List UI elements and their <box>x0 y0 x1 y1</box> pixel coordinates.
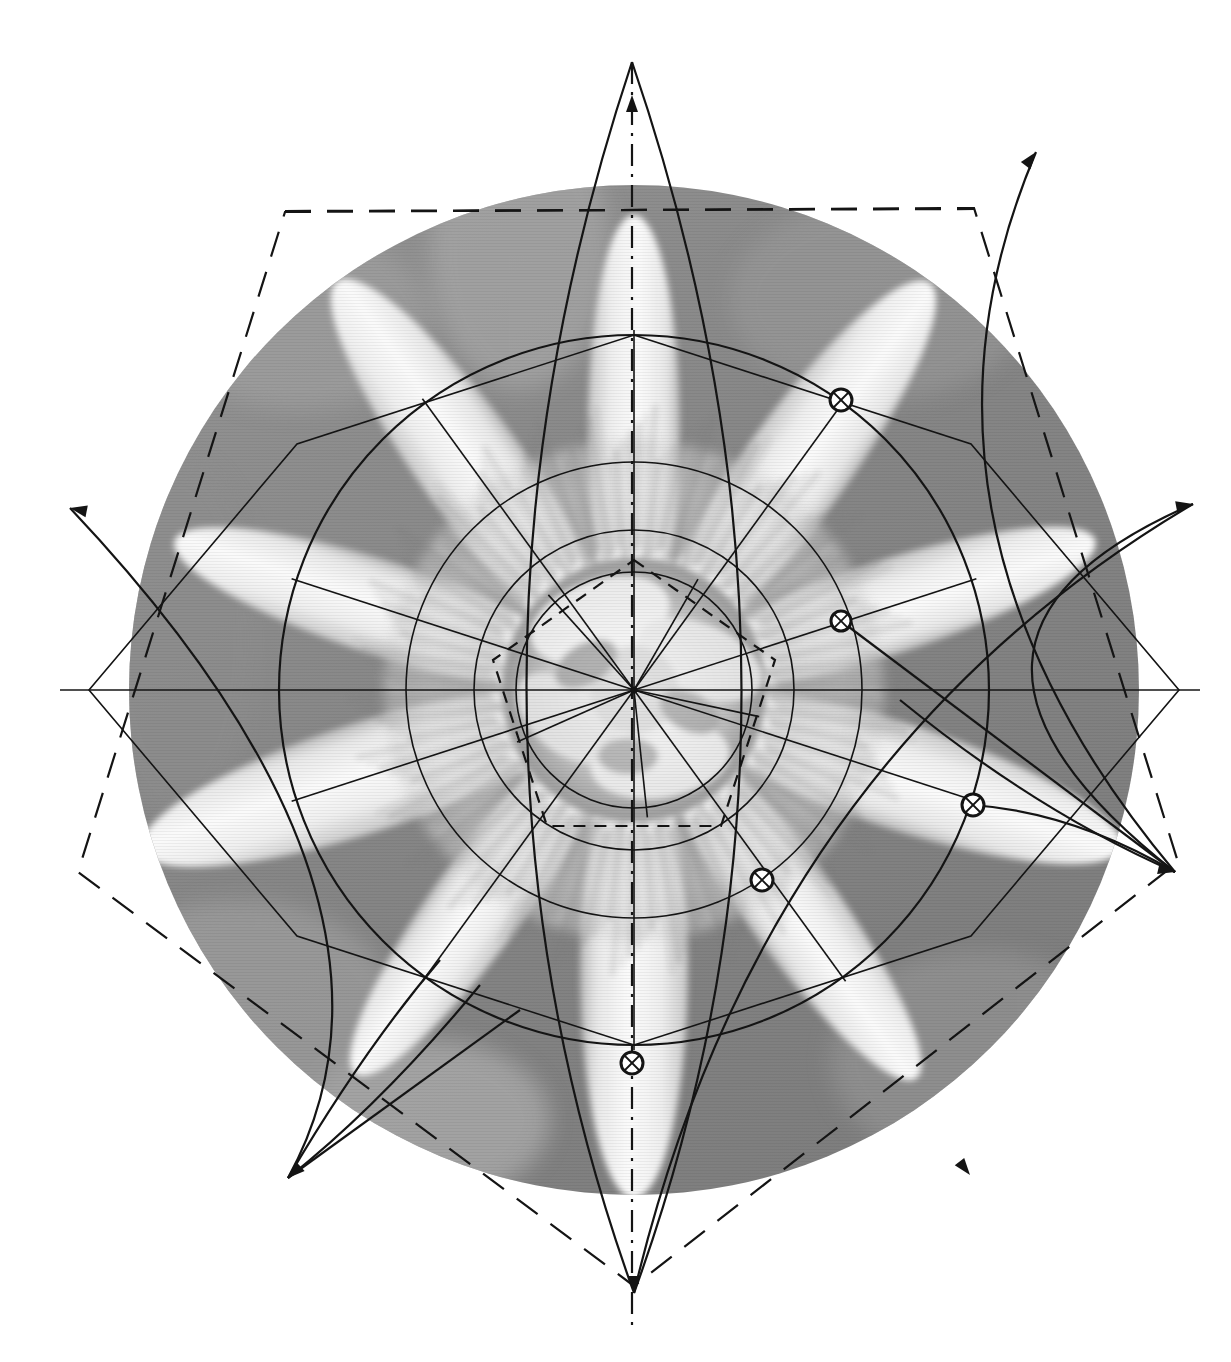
inner-radial-tick-2 <box>634 690 647 817</box>
diagram-canvas: Geometric construction overlay on passio… <box>0 0 1231 1362</box>
arrowhead-lower-right-2 <box>955 1158 970 1175</box>
left-bundle-curve-0 <box>288 960 440 1178</box>
inner-radial-tick-3 <box>517 690 634 742</box>
right-bundle-curve-1 <box>841 621 1175 872</box>
ogive-curve-5 <box>982 152 1175 872</box>
outer-dashed-pentagon <box>78 208 1178 1286</box>
ogive-curve-0 <box>526 62 634 1293</box>
center-point <box>630 686 637 693</box>
right-bundle-curve-2 <box>900 700 1175 872</box>
arrowhead-upper-right <box>1021 152 1036 169</box>
arrowhead-lower-left <box>288 1162 305 1178</box>
geometric-overlay <box>0 0 1231 1362</box>
left-bundle-curve-1 <box>288 1010 520 1178</box>
radial-spoke-9 <box>422 399 634 690</box>
ogive-curve-3 <box>1032 504 1193 872</box>
radial-spoke-1 <box>634 399 846 690</box>
ogive-curve-1 <box>632 62 742 1293</box>
ogive-curve-2 <box>634 504 1193 1293</box>
ogive-curve-4 <box>70 508 332 1178</box>
inner-radial-tick-0 <box>634 579 698 690</box>
arrowhead-right <box>1175 501 1193 513</box>
arrowhead-top <box>626 95 638 112</box>
radial-spoke-2 <box>634 579 976 690</box>
radial-spoke-3 <box>634 690 976 801</box>
radial-spoke-7 <box>292 690 634 801</box>
horizontal-dashed-top <box>285 209 974 211</box>
radial-spoke-4 <box>634 690 846 981</box>
